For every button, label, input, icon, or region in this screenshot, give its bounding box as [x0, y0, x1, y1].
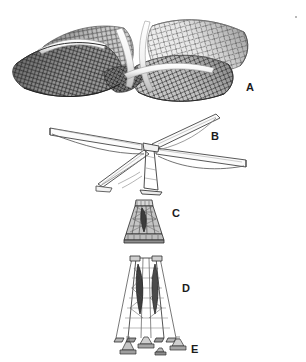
scan-speck	[295, 16, 297, 18]
mesh-roof-svg	[0, 4, 260, 109]
capital-detail-svg	[118, 196, 178, 248]
figure-label-d: D	[182, 283, 190, 294]
panel-c-capital-detail	[118, 196, 178, 248]
figure-label-b: B	[211, 131, 219, 142]
panel-b-frame-drawing	[40, 110, 260, 195]
figure-label-e: E	[191, 344, 199, 355]
figure-label-c: C	[172, 208, 180, 219]
figure-plate: A	[0, 0, 306, 362]
figure-label-a: A	[246, 82, 254, 93]
shell-front-left	[13, 43, 123, 97]
frame-drawing-svg	[40, 110, 260, 195]
footings-svg	[118, 336, 190, 362]
lattice-mast-svg	[110, 252, 182, 344]
panel-e-footings	[118, 336, 190, 362]
panel-a-mesh-roof	[0, 4, 260, 109]
panel-d-lattice-mast	[110, 252, 182, 344]
